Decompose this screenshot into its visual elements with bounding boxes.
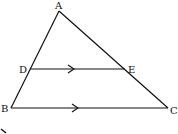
vertex-label-a: A <box>54 0 63 11</box>
triangle-diagram: A D E B C <box>0 0 178 134</box>
vertex-label-e: E <box>128 64 135 75</box>
vertex-label-c: C <box>170 105 178 116</box>
vertex-label-d: D <box>19 64 27 75</box>
vertex-label-b: B <box>1 103 8 114</box>
side-ab <box>11 11 59 108</box>
side-ac <box>59 11 168 108</box>
partial-mark <box>1 129 6 133</box>
